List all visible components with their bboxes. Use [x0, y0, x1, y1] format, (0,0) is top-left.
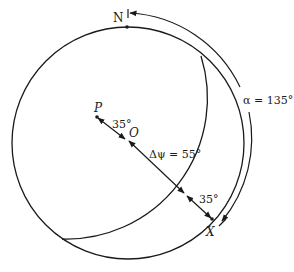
- label-delta-psi: Δψ = 55°: [149, 148, 201, 161]
- alpha-arc-upper: [130, 13, 240, 87]
- label-x: X: [205, 225, 215, 239]
- point-x: [210, 217, 214, 221]
- label-p: P: [93, 101, 103, 115]
- label-n: N: [113, 11, 124, 25]
- label-alpha: α = 135°: [243, 94, 293, 107]
- diagram-canvas: N P O X 35° Δψ = 55° 35° α = 135°: [0, 0, 294, 272]
- label-angle-po: 35°: [112, 118, 132, 131]
- point-n: [125, 25, 129, 29]
- label-angle-x: 35°: [199, 193, 219, 206]
